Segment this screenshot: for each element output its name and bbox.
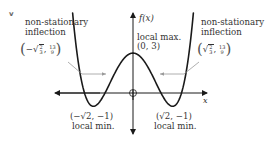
- leader-arrowhead-right: [160, 72, 164, 75]
- local-min-right-label: local min.: [154, 122, 197, 132]
- inflection-left-label-line2: inflection: [25, 28, 66, 38]
- y-axis-label: f(x): [139, 14, 154, 24]
- x-sign: −: [26, 45, 33, 55]
- corner-mark: v: [9, 10, 14, 18]
- inflection-left-coords: ( − √ 2 3 , 13 9 ): [20, 44, 61, 55]
- sqrt-denominator: 3: [209, 50, 212, 55]
- leader-line-right-inflection: [160, 62, 199, 74]
- inflection-right-label-line2: inflection: [201, 28, 242, 38]
- x-axis-label: x: [203, 96, 208, 106]
- function-graph-figure: v f(x) x local max. (0, 3) (−√2, −1) loc…: [0, 0, 271, 142]
- local-max-coords: (0, 3): [137, 42, 160, 52]
- local-min-left-label: local min.: [72, 122, 115, 132]
- leader-line-left-inflection: [68, 62, 106, 74]
- leader-arrowhead-left: [102, 72, 106, 75]
- inflection-right-coords: ( √ 2 3 , 13 9 ): [197, 44, 231, 55]
- sqrt-denominator: 3: [40, 50, 43, 55]
